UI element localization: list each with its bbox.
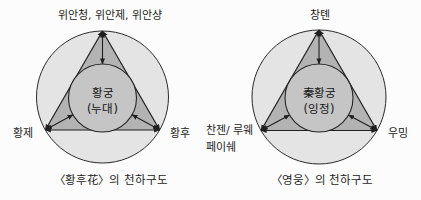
dual-triangle-diagram-svg: 위안청, 위안제, 위안샹 황제 황후 황궁 (누대) 〈황후花〉의 천하구도 … [0, 0, 421, 200]
top-vertex-label: 창톈 [310, 9, 330, 22]
diagram-caption: 〈황후花〉의 천하구도 [54, 173, 168, 187]
center-label-line1: 황궁 [92, 86, 114, 100]
diagram-caption: 〈영웅〉의 천하구도 [271, 173, 374, 187]
right-vertex-label: 황후 [170, 127, 190, 140]
center-label-line2: (누대) [87, 102, 118, 116]
diagram-hero: 창톈 찬젠/ 루웨 페이쉐 우밍 秦황궁 (잉정) 〈영웅〉의 천하구도 [206, 9, 408, 187]
left-vertex-label-line1: 찬젠/ 루웨 [206, 123, 253, 137]
top-vertex-label: 위안청, 위안제, 위안샹 [58, 9, 162, 22]
diagram-golden-flower: 위안청, 위안제, 위안샹 황제 황후 황궁 (누대) 〈황후花〉의 천하구도 [13, 9, 190, 187]
center-label-line2: (잉정) [304, 102, 335, 116]
left-vertex-label-line2: 페이쉐 [206, 141, 236, 154]
left-vertex-label: 황제 [13, 127, 33, 140]
center-label-line1: 秦황궁 [303, 86, 336, 100]
right-vertex-label: 우밍 [388, 127, 408, 140]
figure-canvas: 위안청, 위안제, 위안샹 황제 황후 황궁 (누대) 〈황후花〉의 천하구도 … [0, 0, 421, 200]
